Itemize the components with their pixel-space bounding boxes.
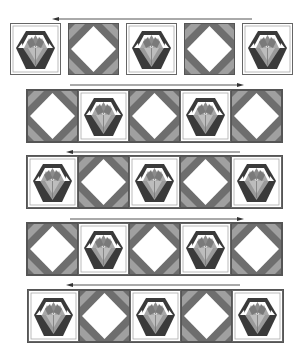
basket-block xyxy=(78,90,129,142)
square-in-square-block xyxy=(27,90,78,142)
quilt-row-4 xyxy=(27,223,282,275)
square-in-square-block xyxy=(68,23,119,75)
pressing-arrow-left xyxy=(66,282,240,288)
square-in-square-block xyxy=(231,90,282,142)
basket-block xyxy=(232,290,283,342)
basket-block xyxy=(78,223,129,275)
pressing-arrow-right xyxy=(70,216,244,222)
quilt-row-5 xyxy=(28,290,283,342)
square-in-square-block xyxy=(27,223,78,275)
basket-block xyxy=(242,23,293,75)
basket-block xyxy=(10,23,61,75)
pressing-arrow-left xyxy=(66,149,240,155)
square-in-square-block xyxy=(129,90,180,142)
square-in-square-block xyxy=(184,23,235,75)
basket-block xyxy=(180,90,231,142)
basket-block xyxy=(130,290,181,342)
square-in-square-block xyxy=(79,290,130,342)
square-in-square-block xyxy=(181,290,232,342)
square-in-square-block xyxy=(129,223,180,275)
quilt-row-1 xyxy=(10,23,293,75)
basket-block xyxy=(231,156,282,208)
quilt-row-2 xyxy=(27,90,282,142)
square-in-square-block xyxy=(231,223,282,275)
basket-block xyxy=(28,290,79,342)
square-in-square-block xyxy=(78,156,129,208)
pressing-arrow-right xyxy=(70,82,244,88)
basket-block xyxy=(129,156,180,208)
pressing-arrow-left xyxy=(52,16,252,22)
quilt-row-3 xyxy=(27,156,282,208)
basket-block xyxy=(126,23,177,75)
basket-block xyxy=(180,223,231,275)
square-in-square-block xyxy=(180,156,231,208)
basket-block xyxy=(27,156,78,208)
